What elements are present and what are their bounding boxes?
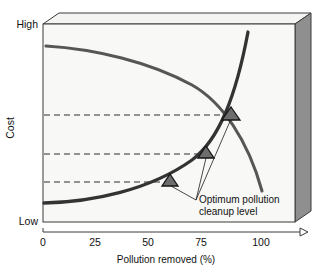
panel-top-face — [43, 13, 311, 24]
x-tick-label-25: 25 — [89, 236, 101, 248]
chart-figure: High Low Cost 0 25 50 75 100 Pollution r… — [0, 0, 326, 273]
plot-area-background — [43, 24, 295, 222]
optimum-annotation-line1: Optimum pollution — [199, 194, 280, 205]
x-axis-title: Pollution removed (%) — [117, 254, 215, 265]
y-axis-title: Cost — [4, 117, 16, 139]
x-tick-label-0: 0 — [40, 236, 46, 248]
x-tick-label-75: 75 — [195, 236, 207, 248]
optimum-annotation-line2: cleanup level — [199, 206, 257, 217]
y-axis-top-label: High — [16, 18, 38, 30]
x-tick-label-50: 50 — [142, 236, 154, 248]
x-tick-label-100: 100 — [252, 236, 270, 248]
y-axis-bottom-label: Low — [19, 215, 39, 227]
x-axis-arrowhead — [300, 228, 308, 236]
panel-right-face — [295, 13, 311, 222]
